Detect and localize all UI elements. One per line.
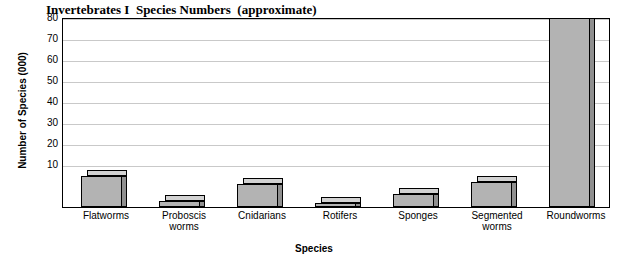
y-tick-20: 20 <box>28 138 58 149</box>
x-axis-tick-labels: Flatworms Proboscis worms Cnidarians Rot… <box>62 210 610 240</box>
bar-chart: Invertebrates I Species Numbers (approxi… <box>0 0 628 264</box>
y-tick-60: 60 <box>28 54 58 65</box>
y-tick-10: 10 <box>28 159 58 170</box>
x-tick-cnidarians: Cnidarians <box>226 210 298 221</box>
bar-rotifers <box>315 18 367 207</box>
x-tick-sponges: Sponges <box>382 210 454 221</box>
y-axis-tick-labels: 80 70 60 50 40 30 20 10 <box>22 18 58 208</box>
x-tick-proboscis-worms-line1: Proboscis <box>148 210 220 221</box>
bar-front-cnidarians <box>237 184 278 207</box>
y-tick-50: 50 <box>28 75 58 86</box>
bar-front-segmented-worms <box>471 182 512 207</box>
x-tick-proboscis-worms-line2: worms <box>148 221 220 232</box>
bar-proboscis-worms <box>159 18 211 207</box>
x-tick-roundworms: Roundworms <box>536 210 616 221</box>
bar-sponges <box>393 18 445 207</box>
y-tick-80: 80 <box>28 12 58 23</box>
bar-roundworms <box>549 18 607 207</box>
x-tick-segmented-worms-line2: worms <box>458 221 536 232</box>
x-tick-flatworms: Flatworms <box>70 210 142 221</box>
bar-front-roundworms <box>549 18 590 207</box>
bar-segmented-worms <box>471 18 523 207</box>
bar-front-flatworms <box>81 176 122 208</box>
x-tick-rotifers: Rotifers <box>304 210 376 221</box>
x-axis-title: Species <box>0 243 628 254</box>
bar-front-sponges <box>393 194 434 207</box>
y-tick-70: 70 <box>28 33 58 44</box>
bar-flatworms <box>81 18 133 207</box>
bar-front-rotifers <box>315 203 356 207</box>
y-tick-30: 30 <box>28 117 58 128</box>
bar-front-proboscis-worms <box>159 201 200 207</box>
chart-title: Invertebrates I Species Numbers (approxi… <box>46 2 317 18</box>
x-tick-segmented-worms-line1: Segmented <box>458 210 536 221</box>
bar-cnidarians <box>237 18 289 207</box>
plot-area <box>62 18 610 208</box>
y-tick-40: 40 <box>28 96 58 107</box>
